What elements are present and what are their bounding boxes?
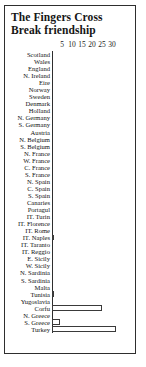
bar-row: E. Sicily bbox=[5, 255, 135, 262]
bar-track bbox=[52, 220, 135, 227]
bar bbox=[52, 319, 60, 325]
bar-row-label: Wales bbox=[5, 58, 52, 65]
bar-row-label: IT. Taranto bbox=[5, 241, 52, 248]
bar-track bbox=[52, 121, 135, 128]
x-axis-tick-5: 5 bbox=[60, 40, 64, 49]
bar-track bbox=[52, 326, 135, 333]
bar-row-label: IT. Rome bbox=[5, 227, 52, 234]
bar-track bbox=[52, 51, 135, 58]
bar-row: N. Spain bbox=[5, 178, 135, 185]
bar-row-label: Corfu bbox=[5, 305, 52, 312]
bar-track bbox=[52, 199, 135, 206]
bar-row-label: Turkey bbox=[5, 326, 52, 333]
x-axis-tick-10: 10 bbox=[68, 40, 76, 49]
bar-row-label: Denmark bbox=[5, 100, 52, 107]
bar-row-label: N. France bbox=[5, 150, 52, 157]
bar-row-label: N. Belgium bbox=[5, 136, 52, 143]
bar-track bbox=[52, 269, 135, 276]
bar-row: Tunisia bbox=[5, 291, 135, 298]
bar-track bbox=[52, 248, 135, 255]
bar-row: S. Spain bbox=[5, 192, 135, 199]
bar-track bbox=[52, 65, 135, 72]
bar-track bbox=[52, 227, 135, 234]
bar-row: W. France bbox=[5, 157, 135, 164]
bar-row: Eire bbox=[5, 79, 135, 86]
bar-track bbox=[52, 319, 135, 326]
bar-row: Malta bbox=[5, 284, 135, 291]
bar-row-label: Holland bbox=[5, 107, 52, 114]
bar-row-label: S. Germany bbox=[5, 121, 52, 128]
x-axis-tick-labels: 51015202530 bbox=[5, 40, 135, 51]
bar-row: Austria bbox=[5, 129, 135, 136]
bar-row-label: S. France bbox=[5, 171, 52, 178]
bar-row: S. Sardinia bbox=[5, 277, 135, 284]
bar-row: Yugoslavia bbox=[5, 298, 135, 305]
bar-row-label: W. France bbox=[5, 157, 52, 164]
bar-row-label: Tunisia bbox=[5, 291, 52, 298]
bar bbox=[52, 305, 102, 311]
bar bbox=[52, 235, 54, 241]
bar-row-label: Yugoslavia bbox=[5, 298, 52, 305]
bar-track bbox=[52, 255, 135, 262]
bar-track bbox=[52, 100, 135, 107]
bar-track bbox=[52, 213, 135, 220]
bar-track bbox=[52, 72, 135, 79]
bar-row: N. Sardinia bbox=[5, 269, 135, 276]
bar-track bbox=[52, 79, 135, 86]
bar-row: Scotland bbox=[5, 51, 135, 58]
bar-row-label: W. Sicily bbox=[5, 262, 52, 269]
bar-row: Sweden bbox=[5, 93, 135, 100]
bar-row: IT. Rome bbox=[5, 227, 135, 234]
bar-row: IT. Naples bbox=[5, 234, 135, 241]
bar-track bbox=[52, 143, 135, 150]
bar-row-label: C. France bbox=[5, 164, 52, 171]
bar-row-label: S. Greece bbox=[5, 319, 52, 326]
bar-row-label: S. Belgium bbox=[5, 143, 52, 150]
bar-row: Wales bbox=[5, 58, 135, 65]
bar-track bbox=[52, 129, 135, 136]
bar-track bbox=[52, 114, 135, 121]
bar-track bbox=[52, 298, 135, 305]
bar-row: S. France bbox=[5, 171, 135, 178]
bar-row-label: S. Spain bbox=[5, 192, 52, 199]
bar-row: N. Germany bbox=[5, 114, 135, 121]
bar-row-label: Sweden bbox=[5, 93, 52, 100]
bar-row-label: N. Germany bbox=[5, 114, 52, 121]
bar-row-label: Scotland bbox=[5, 51, 52, 58]
bar-track bbox=[52, 107, 135, 114]
bar-row: Norway bbox=[5, 86, 135, 93]
bar-row-label: Eire bbox=[5, 79, 52, 86]
bar-row-label: IT. Florence bbox=[5, 220, 52, 227]
bar-row-label: C. Spain bbox=[5, 185, 52, 192]
bar-track bbox=[52, 178, 135, 185]
bar-track bbox=[52, 157, 135, 164]
bar-row: IT. Reggio bbox=[5, 248, 135, 255]
bar-row-label: Portagul bbox=[5, 206, 52, 213]
bar-track bbox=[52, 192, 135, 199]
bar-track bbox=[52, 312, 135, 319]
x-axis-tick-20: 20 bbox=[88, 40, 96, 49]
bar-row-label: IT. Turin bbox=[5, 213, 52, 220]
bar-track bbox=[52, 291, 135, 298]
chart-figure: The Fingers Cross Break friendship 51015… bbox=[4, 5, 136, 354]
bar-track bbox=[52, 206, 135, 213]
bar-row-label: Canaries bbox=[5, 199, 52, 206]
bar-row-label: N. Greece bbox=[5, 312, 52, 319]
bar-row-label: E. Sicily bbox=[5, 255, 52, 262]
bar bbox=[52, 291, 54, 297]
bar-track bbox=[52, 185, 135, 192]
bar-row: N. Greece bbox=[5, 312, 135, 319]
bar-row: England bbox=[5, 65, 135, 72]
bar-row-label: N. Ireland bbox=[5, 72, 52, 79]
bar-track bbox=[52, 262, 135, 269]
x-axis-tick-15: 15 bbox=[78, 40, 86, 49]
bar-row-label: Norway bbox=[5, 86, 52, 93]
bar-track bbox=[52, 241, 135, 248]
bar-row: N. Belgium bbox=[5, 136, 135, 143]
bar-row-label: England bbox=[5, 65, 52, 72]
bar-track bbox=[52, 277, 135, 284]
bar-row-label: IT. Reggio bbox=[5, 248, 52, 255]
bar-row: C. France bbox=[5, 164, 135, 171]
bar-track bbox=[52, 150, 135, 157]
chart-title: The Fingers Cross Break friendship bbox=[5, 6, 135, 37]
